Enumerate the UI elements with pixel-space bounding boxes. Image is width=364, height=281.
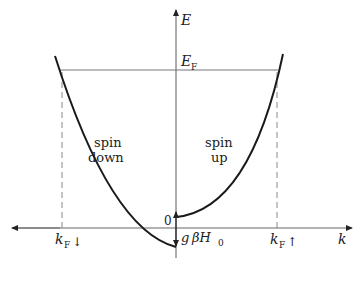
e-axis-label: E [180, 12, 191, 28]
spin-up-label-line1: spin [205, 135, 233, 150]
fermi-level-subscript: F [191, 62, 197, 72]
spin-down-arrow-icon: ↓ [72, 235, 82, 249]
k-axis-label: k [338, 231, 346, 247]
kf-up-subscript: F [279, 240, 285, 250]
spin-down-label-line1: spin [94, 135, 122, 150]
fermi-level-label: E [180, 53, 191, 69]
kf-up-label: k [270, 231, 278, 247]
kf-down-subscript: F [64, 240, 70, 250]
splitting-g-label: g [181, 230, 189, 245]
splitting-subscript: 0 [218, 238, 224, 248]
spin-up-arrow-icon: ↑ [287, 235, 297, 249]
origin-label: 0 [164, 214, 172, 228]
spin-up-label-line2: up [211, 150, 228, 165]
kf-down-label: k [55, 231, 63, 247]
spin-split-band-diagram: E E F spin down spin up 0 g βH 0 k F ↓ k… [0, 0, 364, 281]
splitting-label: βH [191, 230, 212, 245]
spin-down-label-line2: down [88, 150, 124, 165]
